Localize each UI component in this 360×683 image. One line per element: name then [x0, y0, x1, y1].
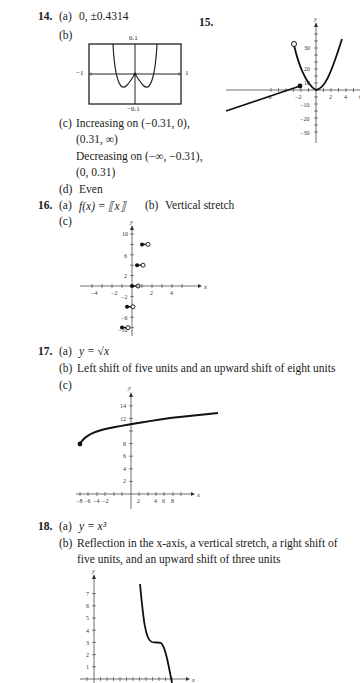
- svg-text:y: y: [129, 218, 133, 225]
- problem-14d-label: (d): [59, 183, 72, 195]
- svg-text:4: 4: [123, 466, 126, 472]
- svg-text:y: y: [313, 15, 317, 22]
- svg-text:30: 30: [304, 45, 310, 51]
- svg-text:20: 20: [304, 66, 310, 72]
- svg-text:2: 2: [137, 498, 140, 504]
- svg-text:5: 5: [86, 615, 89, 621]
- svg-text:4: 4: [170, 290, 173, 296]
- svg-text:2: 2: [123, 478, 126, 484]
- problem-17a-answer: y = √x: [79, 345, 109, 357]
- svg-text:−30: −30: [300, 130, 309, 136]
- svg-text:x: x: [203, 283, 207, 290]
- problem-14b-label: (b): [59, 29, 72, 41]
- problem-18a-answer: y = x³: [79, 520, 106, 532]
- problem-14c-decreasing-2: (0, 0.31): [76, 166, 115, 178]
- svg-text:−10: −10: [300, 102, 309, 108]
- problem-14c-decreasing: Decreasing on (−∞, −0.31),: [76, 150, 203, 162]
- problem-16a-label: (a): [59, 199, 72, 211]
- problem-15-number: 15.: [199, 16, 213, 28]
- graph-14b-right-label: 1: [185, 69, 189, 77]
- svg-text:1: 1: [86, 664, 89, 670]
- graph-14b-left-label: −1: [76, 69, 83, 77]
- problem-16b-answer: Vertical stretch: [165, 199, 234, 211]
- problem-14d-answer: Even: [79, 183, 103, 195]
- problem-14a-label: (a): [59, 10, 72, 22]
- svg-text:6: 6: [123, 453, 126, 459]
- graph-14b: [88, 36, 182, 106]
- svg-text:2: 2: [86, 652, 89, 658]
- svg-text:x: x: [191, 676, 195, 683]
- svg-text:−6: −6: [84, 498, 90, 504]
- problem-18a-label: (a): [59, 520, 72, 532]
- svg-text:y: y: [127, 384, 131, 391]
- problem-17-number: 17.: [38, 345, 52, 357]
- svg-text:x: x: [196, 491, 200, 498]
- svg-text:3: 3: [86, 640, 89, 646]
- problem-18b-label: (b): [59, 537, 72, 549]
- svg-text:4: 4: [344, 94, 347, 100]
- svg-text:8: 8: [123, 441, 126, 447]
- problem-14-number: 14.: [38, 10, 52, 22]
- problem-16a-answer: f(x) = ⟦x⟧: [79, 199, 126, 213]
- problem-18-number: 18.: [38, 520, 52, 532]
- svg-text:4: 4: [86, 628, 89, 634]
- svg-text:−2: −2: [295, 94, 301, 100]
- svg-text:4: 4: [154, 498, 157, 504]
- svg-text:y: y: [91, 567, 95, 574]
- svg-text:−4: −4: [93, 498, 99, 504]
- problem-18b-answer-line2: five units, and an upward shift of three…: [77, 553, 280, 565]
- svg-text:−2: −2: [102, 498, 108, 504]
- problem-16-number: 16.: [38, 199, 52, 211]
- svg-text:2: 2: [124, 273, 127, 279]
- svg-text:7: 7: [86, 591, 89, 597]
- problem-18b-answer-line1: Reflection in the x-axis, a vertical str…: [77, 537, 338, 549]
- svg-text:2: 2: [329, 94, 332, 100]
- problem-14c-increasing: Increasing on (−0.31, 0),: [76, 117, 190, 129]
- svg-text:−2: −2: [121, 294, 127, 300]
- svg-text:6: 6: [124, 253, 127, 259]
- graph-14b-top-label: 0.1: [129, 34, 138, 42]
- svg-text:8: 8: [171, 498, 174, 504]
- problem-14a-answer: 0, ±0.4314: [79, 10, 128, 22]
- graph-18c: 7 6 5 4 3 2 1 x y: [70, 570, 200, 683]
- svg-text:−20: −20: [300, 116, 309, 122]
- problem-14c-increasing-2: (0.31, ∞): [76, 133, 118, 145]
- problem-17b-answer: Left shift of five units and an upward s…: [77, 362, 335, 374]
- svg-text:−6: −6: [121, 315, 127, 321]
- graph-16c: −4 −2 2 4 10 6 2 −2 −6 −10 x y: [70, 218, 210, 338]
- problem-16b-label: (b): [145, 199, 158, 211]
- graph-14b-bottom-label: −0.1: [127, 105, 140, 113]
- svg-text:10: 10: [122, 231, 128, 237]
- problem-17a-label: (a): [59, 345, 72, 357]
- problem-17b-label: (b): [59, 362, 72, 374]
- svg-text:−2: −2: [111, 290, 117, 296]
- svg-text:6: 6: [86, 603, 89, 609]
- svg-text:6: 6: [162, 498, 165, 504]
- svg-text:−8: −8: [76, 498, 82, 504]
- svg-text:−4: −4: [91, 290, 97, 296]
- graph-15: −6 −2 2 4 6 30 20 10 −10 −20 −30 x y: [220, 15, 360, 145]
- svg-text:14: 14: [120, 403, 126, 409]
- svg-text:2: 2: [150, 290, 153, 296]
- graph-17c: −8 −6 −4 −2 2 4 6 8 14 12 8 6 4 2 x y: [70, 385, 230, 515]
- svg-text:12: 12: [120, 416, 126, 422]
- problem-14c-label: (c): [59, 117, 72, 129]
